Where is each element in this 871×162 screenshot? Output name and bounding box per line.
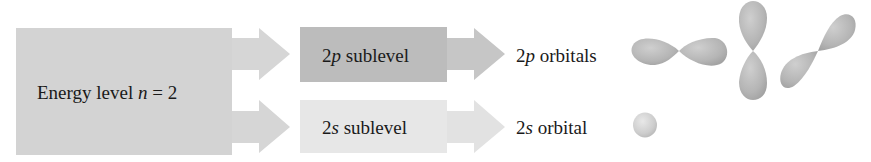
- energy-level-label: Energy level n = 2: [37, 83, 177, 102]
- arrow-2p-to-orbitals: [447, 28, 505, 80]
- p-orbital-horizontal-icon: [632, 38, 728, 66]
- orbital-2s-suffix: orbital: [533, 117, 587, 138]
- sublevel-2s-suffix: sublevel: [339, 117, 407, 138]
- orbitals-2p-suffix: orbitals: [535, 45, 597, 66]
- orbitals-2p-letter: p: [526, 45, 536, 66]
- arrow-2s-to-orbital: [447, 100, 505, 153]
- sublevel-2s-label: 2s sublevel: [322, 118, 407, 137]
- p-orbital-vertical-icon: [739, 1, 767, 100]
- sublevel-2s-number: 2: [322, 117, 332, 138]
- sublevel-2p-letter: p: [332, 45, 342, 66]
- energy-level-prefix: Energy level: [37, 82, 138, 103]
- diagram-shapes: [0, 0, 871, 162]
- orbital-2s-label: 2s orbital: [516, 118, 587, 137]
- arrow-energy-to-2p: [232, 28, 290, 80]
- orbitals-2p-number: 2: [516, 45, 526, 66]
- sublevel-2s-letter: s: [332, 117, 339, 138]
- arrow-energy-to-2s: [232, 100, 290, 153]
- s-orbital-sphere-icon: [633, 113, 657, 138]
- sublevel-2p-label: 2p sublevel: [322, 46, 409, 65]
- energy-level-suffix: = 2: [147, 82, 177, 103]
- sublevel-2p-suffix: sublevel: [341, 45, 409, 66]
- orbital-2s-letter: s: [526, 117, 533, 138]
- orbitals-2p-label: 2p orbitals: [516, 46, 597, 65]
- orbital-2s-number: 2: [516, 117, 526, 138]
- sublevel-2p-number: 2: [322, 45, 332, 66]
- p-orbital-diagonal-icon: [780, 14, 855, 88]
